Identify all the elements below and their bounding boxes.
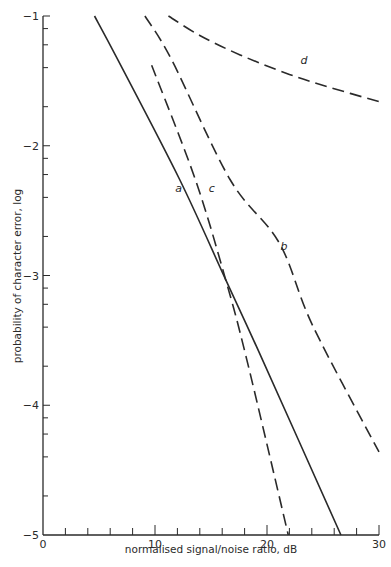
- x-tick-label: 0: [40, 538, 47, 551]
- curve-label-b: b: [280, 240, 287, 253]
- axes: [43, 16, 379, 535]
- error-probability-chart: 0102030−1−2−3−4−5 abcd normalised signal…: [0, 0, 391, 567]
- y-tick-label: −5: [23, 529, 39, 542]
- curve-label-c: c: [209, 182, 215, 195]
- x-tick-label: 30: [372, 538, 386, 551]
- curve-b: [145, 16, 379, 452]
- y-tick-label: −1: [23, 10, 39, 23]
- curve-labels: abcd: [175, 54, 308, 253]
- y-tick-label: −2: [23, 140, 39, 153]
- tick-labels: 0102030−1−2−3−4−5: [23, 10, 386, 551]
- curve-label-d: d: [301, 54, 309, 67]
- x-axis-label: normalised signal/noise ratio, dB: [125, 543, 297, 555]
- curve-c: [152, 65, 289, 535]
- curve-d: [168, 16, 379, 102]
- y-axis-label: probability of character error, log: [11, 189, 23, 364]
- y-tick-label: −4: [23, 399, 39, 412]
- tick-marks: [43, 16, 379, 535]
- curve-a: [95, 16, 341, 535]
- curves: [95, 16, 379, 535]
- curve-label-a: a: [175, 182, 182, 195]
- y-tick-label: −3: [23, 270, 39, 283]
